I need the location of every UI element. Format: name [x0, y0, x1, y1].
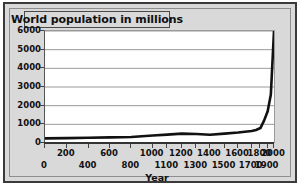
population-line [45, 31, 274, 138]
y-axis-tick [40, 49, 44, 50]
x-axis-label: 600 [100, 148, 118, 158]
y-axis-tick [40, 67, 44, 68]
x-axis-label: 1000 [140, 148, 164, 158]
plot-svg [45, 31, 274, 143]
plot-area [44, 30, 275, 143]
y-axis-tick [40, 123, 44, 124]
chart-frame: World population in millions 01000200030… [3, 2, 297, 183]
y-axis-tick [40, 30, 44, 31]
x-axis-label: 1100 [154, 160, 178, 170]
y-axis-tick [40, 105, 44, 106]
x-axis-label: 1200 [169, 148, 193, 158]
y-axis-label: 2000 [10, 100, 44, 110]
x-axis-label: 1900 [255, 160, 279, 170]
x-axis-label: 1500 [212, 160, 236, 170]
x-axis-tick [166, 144, 167, 148]
x-axis-label: 400 [79, 160, 97, 170]
x-axis-label: 2000 [261, 148, 285, 158]
y-axis-label: 4000 [10, 62, 44, 72]
chart-title-box: World population in millions [24, 11, 170, 28]
x-axis-tick [130, 144, 131, 148]
y-axis-tick [40, 86, 44, 87]
chart-inner-pane: World population in millions 01000200030… [9, 8, 291, 177]
y-axis-label: 6000 [10, 25, 44, 35]
x-axis-tick [88, 144, 89, 148]
x-axis-tick [44, 144, 45, 148]
x-axis-label: 1300 [184, 160, 208, 170]
x-axis-title: Year [10, 172, 304, 183]
x-axis-label: 800 [121, 160, 139, 170]
y-axis-label: 0 [10, 137, 44, 147]
x-axis-label: 200 [57, 148, 75, 158]
gridlines [45, 31, 274, 124]
x-axis-label: 1600 [225, 148, 249, 158]
x-axis-label: 0 [41, 160, 47, 170]
y-axis-label: 5000 [10, 44, 44, 54]
x-axis-label: 1400 [197, 148, 221, 158]
y-axis-tick [40, 142, 44, 143]
y-axis-label: 1000 [10, 118, 44, 128]
x-axis-line [44, 142, 274, 144]
y-axis-label: 3000 [10, 81, 44, 91]
y-axis-labels: 0100020003000400050006000 [4, 30, 44, 142]
